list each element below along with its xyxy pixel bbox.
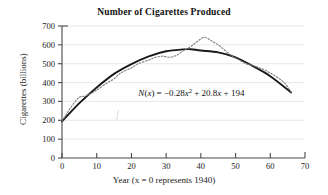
svg-text:400: 400 [42,78,55,88]
svg-text:200: 200 [42,115,55,125]
svg-text:70: 70 [301,161,310,171]
svg-text:0: 0 [60,161,64,171]
svg-text:40: 40 [197,161,206,171]
data-series-group [62,37,291,121]
gridlines-group [62,26,305,139]
svg-text:30: 30 [162,161,171,171]
chart-plot: 0100200300400500600700010203040506070 N(… [0,0,328,195]
svg-text:300: 300 [42,96,55,106]
svg-text:50: 50 [231,161,240,171]
svg-text:60: 60 [266,161,275,171]
x-axis-title-text: Year (x = 0 represents 1940) [113,175,215,185]
equation-annotation: N(x) = −0.28x2 + 20.8x + 194 [137,87,245,98]
x-axis-title: Year (x = 0 represents 1940) [0,175,328,185]
y-axis-title: Cigarettes (billions) [18,27,28,151]
svg-text:N(x) = −0.28x2 + 20.8x + 194: N(x) = −0.28x2 + 20.8x + 194 [137,87,245,98]
figure-container: Number of Cigarettes Produced 0100200300… [0,0,328,195]
svg-text:20: 20 [127,161,136,171]
svg-text:700: 700 [42,21,55,31]
svg-text:10: 10 [92,161,101,171]
svg-text:0: 0 [51,153,55,163]
svg-text:100: 100 [42,134,55,144]
svg-text:500: 500 [42,59,55,69]
svg-text:600: 600 [42,40,55,50]
